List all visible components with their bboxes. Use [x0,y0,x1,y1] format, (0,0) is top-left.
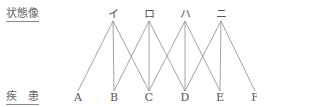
state-node-ha: ハ [180,9,191,21]
state-node-i: イ [108,9,119,21]
disease-node-C: C [145,92,153,104]
state-node-ro: ロ [144,9,155,21]
edge-ニ-E [220,21,221,91]
disease-node-D: D [181,92,190,104]
disease-node-A: A [74,92,82,104]
edge-イ-B [113,21,114,91]
edge-ニ-F [221,21,255,91]
disease-node-B: B [110,92,118,104]
disease-node-F: F [251,92,257,104]
state-node-ni: ニ [216,9,227,21]
disease-node-E: E [216,92,224,104]
edge-イ-A [78,21,113,91]
